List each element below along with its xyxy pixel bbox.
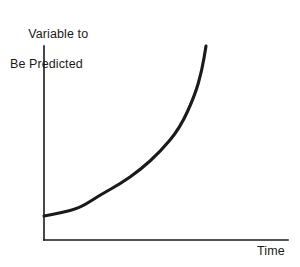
y-axis-label: Variable to Be Predicted — [14, 12, 88, 102]
x-axis-label: Time — [257, 244, 285, 259]
y-axis-label-line-2: Be Predicted — [10, 57, 88, 72]
chart-figure: Variable to Be Predicted Time — [0, 0, 300, 267]
y-axis-label-line-1: Variable to — [28, 27, 88, 41]
